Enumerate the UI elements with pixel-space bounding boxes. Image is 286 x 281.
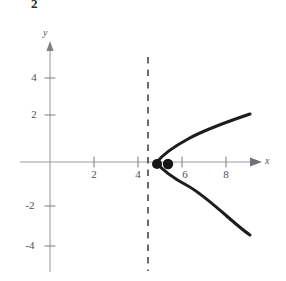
xtick-label-6: 6 — [175, 168, 195, 180]
ytick-label-neg2: -2 — [20, 199, 40, 211]
xtick-label-4: 4 — [128, 168, 148, 180]
xtick-label-8: 8 — [216, 168, 236, 180]
y-axis-label: y — [43, 27, 47, 38]
ytick-label-4: 4 — [24, 71, 44, 83]
ytick-label-neg4: -4 — [20, 239, 40, 251]
point-vertex-focus-left — [152, 159, 162, 169]
figure-canvas — [0, 0, 286, 281]
xtick-label-2: 2 — [84, 168, 104, 180]
ytick-label-2: 2 — [24, 108, 44, 120]
y-axis — [46, 41, 53, 272]
point-focus-right — [163, 159, 173, 169]
x-axis-label: x — [265, 155, 269, 166]
